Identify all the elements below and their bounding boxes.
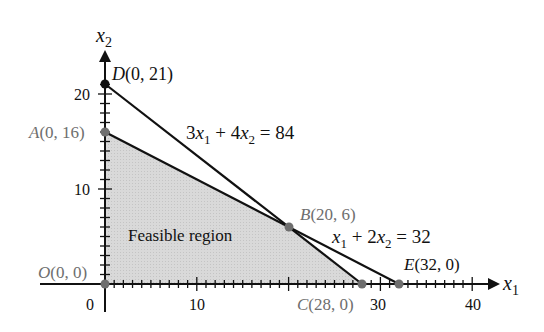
feasible-region-label: Feasible region [128,226,233,245]
point-C [358,280,367,289]
tick-label-x-10: 10 [189,296,205,313]
y-axis-ticks [98,85,112,275]
point-label-E: E(32, 0) [403,255,460,274]
y-axis-arrow-icon [99,50,111,62]
tick-label-x-0: 0 [86,296,94,313]
tick-label-x-40: 40 [465,296,481,313]
point-label-D: D(0, 21) [111,64,173,85]
tick-label-y-10: 10 [74,181,90,198]
x-axis-arrow-icon [488,278,500,290]
point-D [101,80,110,89]
tick-label-y-20: 20 [74,86,90,103]
equation-label-3x1-4x2-84: 3x1 + 4x2 = 84 [186,122,295,147]
point-label-A: A(0, 16) [28,123,85,142]
linear-program-chart: x2 x1 0 10 30 40 10 20 D(0, 21) A(0, 16)… [0,0,544,332]
tick-label-x-30: 30 [370,296,386,313]
point-A [101,128,110,137]
point-E [395,280,404,289]
point-B [285,223,294,232]
point-O [101,280,110,289]
point-label-O: O(0, 0) [38,263,87,282]
point-label-C: C(28, 0) [297,295,354,314]
equation-label-x1-2x2-32: x1 + 2x2 = 32 [331,226,431,251]
point-label-B: B(20, 6) [300,205,356,224]
x-axis-label: x1 [502,272,519,298]
y-axis-label: x2 [95,24,112,50]
